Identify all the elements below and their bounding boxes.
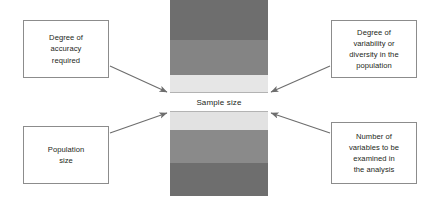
band-outer-bottom xyxy=(170,163,268,196)
central-band-stack: Sample size xyxy=(170,0,268,196)
factor-box-degree-of-accuracy: Degree of accuracy required xyxy=(23,20,109,78)
arrow-top-left-to-center xyxy=(110,66,167,92)
band-inner-bottom xyxy=(170,112,268,130)
band-mid-top xyxy=(170,40,268,75)
factor-box-number-of-variables: Number of variables to be examined in th… xyxy=(331,122,417,184)
sample-size-label: Sample size xyxy=(196,98,241,107)
arrow-bottom-right-to-center xyxy=(271,113,330,133)
arrow-bottom-left-to-center xyxy=(110,113,167,133)
factor-box-label: Number of variables to be examined in th… xyxy=(345,131,403,176)
factor-box-label: Population size xyxy=(44,144,88,166)
band-mid-bottom xyxy=(170,130,268,163)
factor-box-label: Degree of accuracy required xyxy=(45,32,87,66)
band-sample-size: Sample size xyxy=(170,92,268,112)
arrow-top-right-to-center xyxy=(271,66,330,92)
factor-box-population-size: Population size xyxy=(23,126,109,184)
sample-size-diagram: Sample size Degree of accuracy required … xyxy=(0,0,440,208)
band-inner-top xyxy=(170,75,268,92)
band-outer-top xyxy=(170,0,268,40)
factor-box-degree-of-variability: Degree of variability or diversity in th… xyxy=(331,20,417,78)
factor-box-label: Degree of variability or diversity in th… xyxy=(345,27,402,72)
